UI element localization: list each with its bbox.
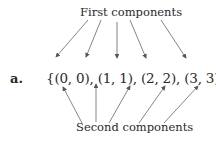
arrows-diagram: [0, 0, 216, 142]
first-component-arrows: [56, 20, 186, 58]
second-component-arrows: [63, 84, 198, 123]
